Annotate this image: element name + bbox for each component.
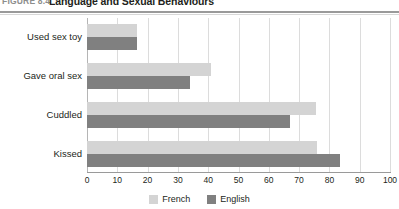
category-label: Cuddled: [3, 109, 82, 120]
gridline: [329, 18, 330, 173]
x-tick-label: 70: [294, 175, 303, 185]
x-tick-label: 60: [264, 175, 273, 185]
category-label: Kissed: [3, 148, 82, 159]
x-tick-label: 50: [234, 175, 243, 185]
legend-item-english[interactable]: English: [207, 194, 250, 204]
figure-title: Language and Sexual Behaviours: [49, 0, 214, 7]
x-tick-label: 20: [143, 175, 152, 185]
x-tick-label: 100: [383, 175, 397, 185]
x-axis-ticks: 0102030405060708090100: [0, 175, 399, 188]
x-axis-line: [87, 172, 391, 173]
bar-french-3: [87, 141, 317, 154]
bar-english-1: [87, 76, 190, 89]
legend-swatch-icon: [149, 195, 158, 204]
legend-label: French: [162, 194, 190, 204]
category-axis: Used sex toyGave oral sexCuddledKissed: [0, 18, 82, 173]
gridline: [390, 18, 391, 173]
figure-container: FIGURE 8.4 Language and Sexual Behaviour…: [0, 0, 399, 209]
bar-french-0: [87, 24, 137, 37]
bar-english-3: [87, 154, 340, 167]
figure-number: FIGURE 8.4: [2, 0, 50, 6]
bar-french-1: [87, 63, 211, 76]
category-label: Used sex toy: [3, 31, 82, 42]
x-tick-label: 10: [113, 175, 122, 185]
legend-item-french[interactable]: French: [149, 194, 190, 204]
category-label: Gave oral sex: [3, 70, 82, 81]
legend-swatch-icon: [207, 195, 216, 204]
figure-header: FIGURE 8.4 Language and Sexual Behaviour…: [0, 0, 399, 10]
title-rule-secondary: [0, 14, 399, 15]
x-tick-label: 40: [203, 175, 212, 185]
title-rule: [0, 11, 399, 13]
x-tick-label: 90: [355, 175, 364, 185]
bar-french-2: [87, 102, 316, 115]
x-tick-label: 0: [85, 175, 90, 185]
chart-legend: FrenchEnglish: [0, 192, 399, 206]
plot-area: [87, 18, 390, 173]
legend-label: English: [220, 194, 250, 204]
bar-english-0: [87, 37, 137, 50]
bar-english-2: [87, 115, 290, 128]
x-tick-label: 30: [173, 175, 182, 185]
x-tick-label: 80: [325, 175, 334, 185]
gridline: [360, 18, 361, 173]
